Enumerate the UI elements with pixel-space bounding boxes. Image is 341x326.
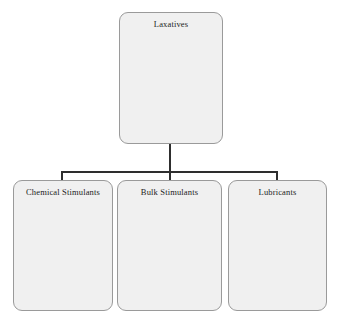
node-lubricants-label: Lubricants (229, 181, 326, 198)
node-bulk-stimulants[interactable]: Bulk Stimulants (117, 180, 222, 311)
node-bulk-stimulants-label: Bulk Stimulants (118, 181, 221, 198)
node-chemical-stimulants-label: Chemical Stimulants (14, 181, 112, 198)
node-laxatives-label: Laxatives (120, 13, 222, 30)
connector-root-stem (169, 144, 171, 173)
diagram-canvas: Laxatives Chemical Stimulants Bulk Stimu… (0, 0, 341, 326)
node-chemical-stimulants[interactable]: Chemical Stimulants (13, 180, 113, 311)
node-laxatives[interactable]: Laxatives (119, 12, 223, 144)
node-lubricants[interactable]: Lubricants (228, 180, 327, 311)
